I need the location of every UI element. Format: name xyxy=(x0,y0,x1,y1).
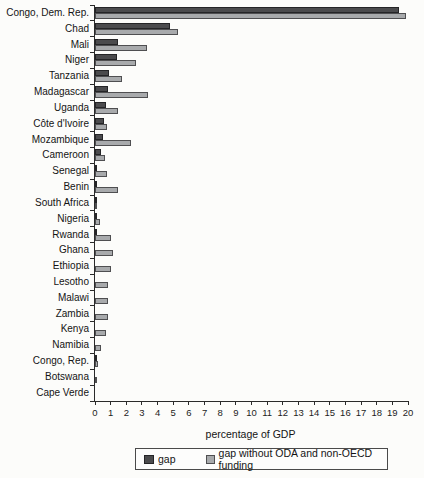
x-tick-label: 19 xyxy=(387,407,398,418)
x-axis-tick xyxy=(392,401,393,405)
bar-gap-without-oda xyxy=(95,377,97,383)
y-axis-tick xyxy=(90,5,95,6)
x-tick-label: 13 xyxy=(293,407,304,418)
legend: gap gap without ODA and non-OECD funding xyxy=(135,448,388,470)
chart-row: Cape Verde xyxy=(95,385,408,401)
y-axis-tick xyxy=(90,179,95,180)
y-axis-tick xyxy=(90,36,95,37)
x-axis-tick xyxy=(204,401,205,405)
category-label: Cameroon xyxy=(0,150,89,160)
y-axis-tick xyxy=(90,337,95,338)
chart-row: Botswana xyxy=(95,369,408,385)
bar-gap-without-oda xyxy=(95,124,107,130)
x-tick-label: 5 xyxy=(171,407,176,418)
x-tick-label: 17 xyxy=(356,407,367,418)
chart-row: Congo, Rep. xyxy=(95,353,408,369)
bar-gap-without-oda xyxy=(95,314,108,320)
y-axis-tick xyxy=(90,210,95,211)
x-axis-tick xyxy=(157,401,158,405)
x-axis-tick xyxy=(188,401,189,405)
legend-swatch-gap xyxy=(144,455,154,464)
x-axis-tick xyxy=(329,401,330,405)
x-tick-label: 12 xyxy=(278,407,289,418)
x-axis-tick xyxy=(251,401,252,405)
y-axis-tick xyxy=(90,52,95,53)
bar-gap-without-oda xyxy=(95,282,108,288)
chart-row: Madagascar xyxy=(95,84,408,100)
bar-gap-without-oda xyxy=(95,219,100,225)
chart-row: Cameroon xyxy=(95,147,408,163)
y-axis-tick xyxy=(90,163,95,164)
x-tick-label: 11 xyxy=(262,407,272,418)
y-axis-tick xyxy=(90,84,95,85)
bar-gap-without-oda xyxy=(95,13,406,19)
chart-row: Lesotho xyxy=(95,274,408,290)
chart-row: Senegal xyxy=(95,163,408,179)
x-tick-label: 8 xyxy=(218,407,223,418)
category-label: Niger xyxy=(0,55,89,65)
chart-row: Mozambique xyxy=(95,132,408,148)
x-tick-label: 2 xyxy=(124,407,129,418)
y-axis-tick xyxy=(90,242,95,243)
funding-gap-bar-chart: Congo, Dem. Rep.ChadMaliNigerTanzaniaMad… xyxy=(0,0,424,478)
category-label: Namibia xyxy=(0,340,89,350)
x-axis-tick xyxy=(298,401,299,405)
y-axis-tick xyxy=(90,226,95,227)
category-label: Tanzania xyxy=(0,71,89,81)
category-label: Congo, Rep. xyxy=(0,356,89,366)
bar-gap-without-oda xyxy=(95,155,105,161)
x-axis-title: percentage of GDP xyxy=(94,428,407,440)
x-axis-tick xyxy=(110,401,111,405)
x-axis-tick xyxy=(141,401,142,405)
y-axis-tick xyxy=(90,290,95,291)
x-tick-label: 4 xyxy=(155,407,160,418)
y-axis-tick xyxy=(90,258,95,259)
x-axis-tick xyxy=(408,401,409,405)
category-label: Senegal xyxy=(0,166,89,176)
bar-gap-without-oda xyxy=(95,361,98,367)
bar-gap-without-oda xyxy=(95,45,147,51)
legend-label-gap: gap xyxy=(158,453,176,465)
x-axis-tick xyxy=(267,401,268,405)
category-label: Nigeria xyxy=(0,214,89,224)
y-axis-tick xyxy=(90,131,95,132)
x-axis-tick xyxy=(95,401,96,405)
plot-area: Congo, Dem. Rep.ChadMaliNigerTanzaniaMad… xyxy=(94,5,408,402)
bar-gap-without-oda xyxy=(95,92,148,98)
x-axis-tick xyxy=(314,401,315,405)
x-axis-tick xyxy=(376,401,377,405)
x-axis-tick xyxy=(361,401,362,405)
chart-row: Chad xyxy=(95,21,408,37)
chart-row: Benin xyxy=(95,179,408,195)
x-tick-label: 3 xyxy=(139,407,144,418)
category-label: Ethiopia xyxy=(0,261,89,271)
category-label: Cape Verde xyxy=(0,388,89,398)
chart-row: Côte d'Ivoire xyxy=(95,116,408,132)
y-axis-tick xyxy=(90,115,95,116)
chart-row: Namibia xyxy=(95,337,408,353)
x-tick-label: 6 xyxy=(186,407,191,418)
chart-row: Nigeria xyxy=(95,211,408,227)
y-axis-tick xyxy=(90,147,95,148)
y-axis-tick xyxy=(90,274,95,275)
x-tick-label: 0 xyxy=(92,407,97,418)
x-tick-label: 14 xyxy=(309,407,320,418)
chart-row: Zambia xyxy=(95,306,408,322)
y-axis-tick xyxy=(90,369,95,370)
legend-label-gap-without-oda: gap without ODA and non-OECD funding xyxy=(219,447,387,471)
chart-row: Ethiopia xyxy=(95,258,408,274)
legend-item-gap: gap xyxy=(144,453,176,465)
bar-gap-without-oda xyxy=(95,76,122,82)
category-label: South Africa xyxy=(0,198,89,208)
x-tick-label: 10 xyxy=(246,407,257,418)
chart-row: Niger xyxy=(95,52,408,68)
bar-gap-without-oda xyxy=(95,235,111,241)
category-label: Congo, Dem. Rep. xyxy=(0,8,89,18)
x-axis-tick xyxy=(282,401,283,405)
bar-gap-without-oda xyxy=(95,266,111,272)
bar-gap-without-oda xyxy=(95,171,107,177)
x-tick-label: 7 xyxy=(202,407,207,418)
category-label: Côte d'Ivoire xyxy=(0,119,89,129)
y-axis-tick xyxy=(90,20,95,21)
y-axis-tick xyxy=(90,100,95,101)
